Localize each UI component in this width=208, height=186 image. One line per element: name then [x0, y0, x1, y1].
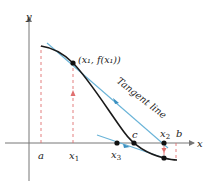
arrow-up-icon: [71, 90, 76, 96]
newton-method-diagram: y x a x1 x3 c x2 b (x₁, f(x₁)) Tangent l…: [0, 0, 208, 186]
point-fx2: [161, 155, 166, 160]
point-c: [131, 140, 136, 145]
label-x2: x2: [160, 128, 170, 141]
x-axis-label: x: [197, 138, 203, 149]
y-axis-label: y: [25, 11, 32, 22]
point-x1: [70, 60, 75, 65]
label-x1: x1: [69, 150, 79, 163]
tangent-label: Tangent line: [115, 75, 169, 121]
point-label: (x₁, f(x₁)): [78, 54, 121, 65]
point-x3: [114, 140, 119, 145]
label-b: b: [176, 128, 182, 139]
arrow-down-icon: [162, 148, 167, 153]
point-x2: [161, 140, 166, 145]
label-c: c: [132, 129, 138, 140]
label-a: a: [38, 150, 44, 161]
label-x3: x3: [111, 149, 121, 162]
